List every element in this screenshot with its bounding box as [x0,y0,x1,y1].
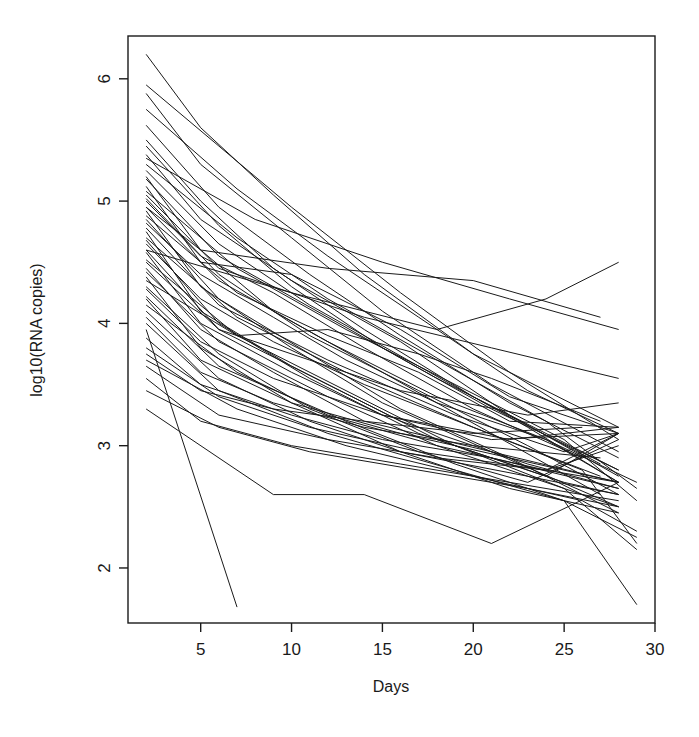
x-tick-label: 5 [196,640,205,659]
chart-root: 51015202530 23456 Days log10(RNA copies) [0,0,699,737]
y-tick-label: 2 [95,563,114,572]
x-tick-label: 15 [373,640,392,659]
x-tick-label: 25 [555,640,574,659]
y-axis-title: log10(RNA copies) [28,263,45,396]
y-tick-label: 4 [95,319,114,328]
spaghetti-plot: 51015202530 23456 Days log10(RNA copies) [0,0,699,737]
x-tick-label: 20 [464,640,483,659]
y-tick-label: 5 [95,196,114,205]
x-tick-label: 30 [646,640,665,659]
x-axis-title: Days [373,678,409,695]
y-tick-label: 6 [95,74,114,83]
plot-background [0,0,699,737]
y-tick-label: 3 [95,441,114,450]
x-tick-label: 10 [282,640,301,659]
